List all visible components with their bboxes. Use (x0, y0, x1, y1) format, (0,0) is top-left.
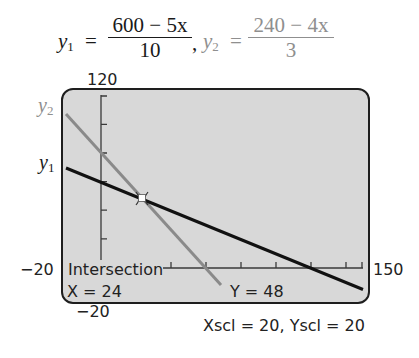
xmax-label: 150 (373, 260, 404, 279)
equation-separator: , (192, 31, 197, 56)
readout-x: X = 24 (67, 282, 122, 301)
intersection-point (139, 195, 146, 202)
y1-fraction: 600 − 5x 10 (108, 15, 192, 60)
y2-equation-label: y2 = (203, 29, 242, 55)
ymax-label: 120 (87, 70, 118, 89)
y2-numerator: 240 − 4x (248, 15, 334, 35)
y1-curve-label: y1 (39, 151, 54, 176)
y-axis-ticks (101, 96, 107, 239)
y1-equation-label: y1 = (58, 29, 97, 55)
ymin-label: −20 (76, 302, 110, 321)
readout-title: Intersection (68, 260, 163, 279)
y2-denominator: 3 (248, 40, 334, 60)
xmin-label: −20 (20, 260, 54, 279)
y2-curve-label: y2 (38, 94, 53, 119)
readout-y: Y = 48 (230, 282, 284, 301)
calculator-screen: Intersection X = 24 Y = 48 (61, 88, 370, 304)
scale-label: Xscl = 20, Yscl = 20 (203, 316, 365, 335)
y1-numerator: 600 − 5x (108, 15, 192, 35)
y1-denominator: 10 (108, 40, 192, 60)
y2-fraction: 240 − 4x 3 (248, 15, 334, 60)
